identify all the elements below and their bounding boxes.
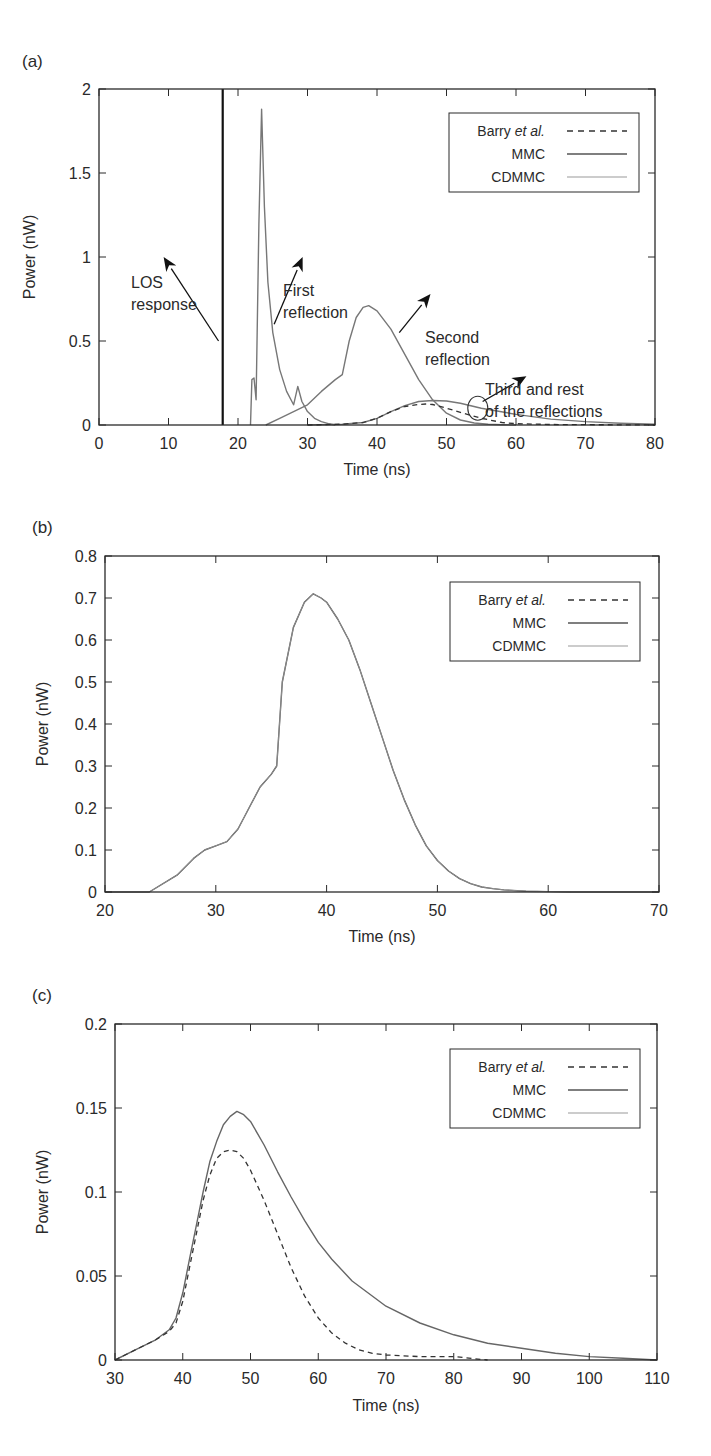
y-tick-label: 1 xyxy=(82,249,91,266)
arrowhead-icon xyxy=(417,294,430,309)
series-line xyxy=(115,1111,657,1360)
panel-c-y-axis-title: Power (nW) xyxy=(34,1150,51,1234)
panel-c-legend: Barry et al. MMC CDMMC xyxy=(450,1049,640,1128)
y-tick-label: 0.2 xyxy=(75,800,97,817)
y-tick-label: 0.8 xyxy=(75,548,97,565)
x-tick-label: 50 xyxy=(242,1370,260,1387)
x-tick-label: 40 xyxy=(318,902,336,919)
x-tick-label: 70 xyxy=(650,902,668,919)
x-tick-label: 50 xyxy=(429,902,447,919)
y-tick-label: 0 xyxy=(88,884,97,901)
legend-entry-barry: Barry et al. xyxy=(477,123,545,139)
x-tick-label: 20 xyxy=(96,902,114,919)
panel-c-x-axis-title: Time (ns) xyxy=(353,1397,420,1414)
y-tick-label: 0.4 xyxy=(75,716,97,733)
legend-entry-mmc: MMC xyxy=(513,1082,546,1098)
y-tick-label: 0 xyxy=(98,1352,107,1369)
x-tick-label: 30 xyxy=(299,435,317,452)
x-tick-label: 70 xyxy=(377,1370,395,1387)
x-tick-label: 110 xyxy=(644,1370,670,1387)
y-tick-label: 0.05 xyxy=(76,1268,107,1285)
x-tick-label: 30 xyxy=(207,902,225,919)
x-tick-label: 60 xyxy=(507,435,525,452)
y-tick-label: 0.5 xyxy=(75,674,97,691)
legend-entry-barry: Barry et al. xyxy=(478,592,546,608)
figure: (a) 0102030405060708000.511.52 Time (ns)… xyxy=(0,0,711,1456)
y-tick-label: 0 xyxy=(82,417,91,434)
legend-entry-mmc: MMC xyxy=(513,615,546,631)
y-tick-label: 0.5 xyxy=(69,333,91,350)
x-tick-label: 20 xyxy=(229,435,247,452)
legend-entry-barry: Barry et al. xyxy=(478,1059,546,1075)
panel-a-legend: Barry et al. MMC CDMMC xyxy=(449,113,639,192)
y-tick-label: 2 xyxy=(82,81,91,98)
x-tick-label: 80 xyxy=(445,1370,463,1387)
legend-entry-mmc: MMC xyxy=(512,146,545,162)
legend-entry-cdmmc: CDMMC xyxy=(492,638,546,654)
panel-a-x-axis-title: Time (ns) xyxy=(344,461,411,478)
series-line xyxy=(308,401,656,426)
arrowhead-icon xyxy=(164,257,177,272)
annotation-first-reflection: Firstreflection xyxy=(283,282,348,321)
series-line xyxy=(115,1150,488,1360)
x-tick-label: 50 xyxy=(438,435,456,452)
panel-b: (b) 20304050607000.10.20.30.40.50.60.70.… xyxy=(32,518,668,945)
x-tick-label: 60 xyxy=(539,902,557,919)
annotation-third-reflections: Third and restof the reflections xyxy=(485,381,602,420)
panel-a-y-axis-title: Power (nW) xyxy=(21,215,38,299)
x-tick-label: 0 xyxy=(95,435,104,452)
y-tick-label: 0.7 xyxy=(75,590,97,607)
panel-a-annotations: LOSresponse Firstreflection Secondreflec… xyxy=(131,274,602,420)
y-tick-label: 0.3 xyxy=(75,758,97,775)
legend-entry-cdmmc: CDMMC xyxy=(492,1105,546,1121)
y-tick-label: 0.2 xyxy=(85,1016,107,1033)
y-tick-label: 1.5 xyxy=(69,165,91,182)
x-tick-label: 30 xyxy=(106,1370,124,1387)
x-tick-label: 40 xyxy=(368,435,386,452)
annotation-second-reflection: Secondreflection xyxy=(425,329,490,368)
x-tick-label: 40 xyxy=(174,1370,192,1387)
x-tick-label: 90 xyxy=(513,1370,531,1387)
panel-a-label: (a) xyxy=(22,52,43,71)
x-tick-label: 70 xyxy=(577,435,595,452)
panel-b-y-axis-title: Power (nW) xyxy=(34,682,51,766)
panel-b-label: (b) xyxy=(32,518,53,537)
y-tick-label: 0.6 xyxy=(75,632,97,649)
panel-c: (c) 3040506070809010011000.050.10.150.2 … xyxy=(32,986,670,1414)
panel-b-legend: Barry et al. MMC CDMMC xyxy=(450,582,640,661)
y-tick-label: 0.15 xyxy=(76,1100,107,1117)
y-tick-label: 0.1 xyxy=(75,842,97,859)
y-tick-label: 0.1 xyxy=(85,1184,107,1201)
panel-a: (a) 0102030405060708000.511.52 Time (ns)… xyxy=(21,52,664,478)
panel-b-x-axis-title: Time (ns) xyxy=(349,928,416,945)
x-tick-label: 80 xyxy=(646,435,664,452)
annotation-arrow xyxy=(399,305,421,333)
x-tick-label: 10 xyxy=(160,435,178,452)
x-tick-label: 60 xyxy=(309,1370,327,1387)
panel-c-label: (c) xyxy=(32,986,52,1005)
x-tick-label: 100 xyxy=(576,1370,603,1387)
legend-entry-cdmmc: CDMMC xyxy=(491,169,545,185)
